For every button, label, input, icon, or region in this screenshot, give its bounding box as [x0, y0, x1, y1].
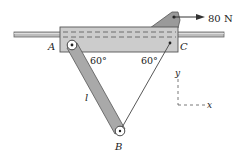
angle-right-label: 60° [141, 55, 158, 66]
force-label: 80 N [208, 13, 233, 24]
pin-a [67, 40, 77, 50]
label-a: A [47, 41, 55, 52]
force-bracket [150, 12, 180, 28]
coordinate-axes [178, 79, 205, 105]
length-label: l [85, 92, 88, 103]
pin-b [115, 126, 125, 136]
label-b: B [114, 141, 122, 152]
label-c: C [180, 41, 188, 52]
point-c-dot [169, 42, 172, 45]
axis-y-label: y [174, 68, 181, 78]
axis-x-label: x [207, 100, 212, 110]
collar-linkage-diagram: 80 N A C B 60° 60° l y x [0, 0, 239, 158]
angle-left-label: 60° [90, 55, 107, 66]
